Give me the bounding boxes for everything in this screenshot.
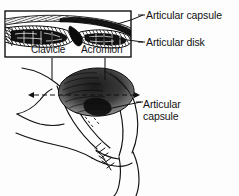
label-articular-capsule-bottom-line1: Articular <box>143 98 181 110</box>
figure-artwork <box>0 0 239 196</box>
label-articular-capsule-top: Articular capsule <box>146 9 222 21</box>
label-articular-capsule-bottom-line2: capsule <box>143 110 179 122</box>
label-articular-capsule-bottom: Articularcapsule <box>143 98 181 122</box>
label-articular-disk: Articular disk <box>146 36 205 48</box>
acromioclavicular-mass <box>58 68 134 116</box>
label-acromion: Acromion <box>81 44 122 55</box>
label-clavicle: Clavicle <box>31 44 65 55</box>
anatomy-figure: Articular capsule Articular disk Articul… <box>0 0 239 196</box>
